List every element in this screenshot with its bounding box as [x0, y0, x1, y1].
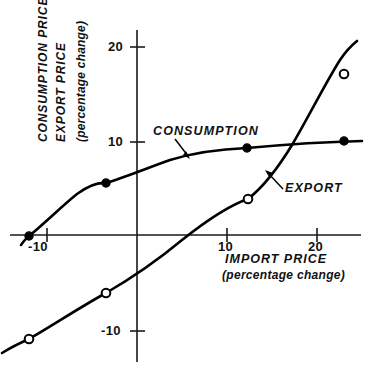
- export-point: [25, 335, 34, 344]
- export-point: [340, 70, 349, 79]
- y-axis-title-line2: EXPORT PRICE: [54, 42, 68, 142]
- consumption-point: [243, 144, 251, 152]
- chart-figure: -10 10 20 20 10 -10 CONSUMPTION EXPORT I…: [0, 0, 373, 370]
- consumption-series-label: CONSUMPTION: [153, 124, 259, 138]
- y-axis-title-group: CONSUMPTION PRICE EXPORT PRICE (percenta…: [28, 10, 143, 160]
- export-point: [244, 195, 253, 204]
- consumption-point: [102, 179, 110, 187]
- x-axis-subtitle: (percentage change): [222, 268, 345, 282]
- consumption-point: [340, 137, 348, 145]
- x-axis-title: IMPORT PRICE: [225, 252, 327, 266]
- export-series-label: EXPORT: [285, 181, 343, 195]
- y-axis-title-line1: CONSUMPTION PRICE: [36, 0, 50, 142]
- y-axis-title-line3: (percentage change): [74, 21, 88, 142]
- x-tick-label-neg10: -10: [28, 239, 48, 254]
- export-point: [102, 289, 111, 298]
- y-tick-label-neg10: -10: [101, 323, 121, 338]
